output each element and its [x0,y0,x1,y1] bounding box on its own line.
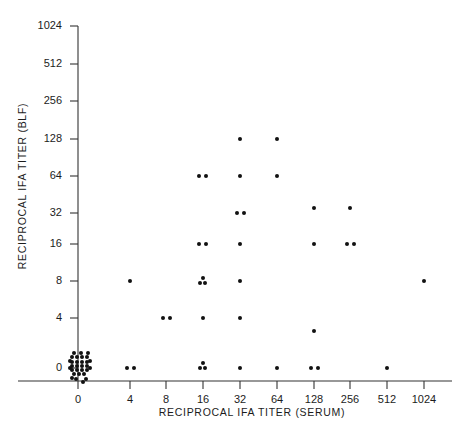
x-tick-label-0: 0 [58,393,98,405]
x-tick-label-128: 128 [294,393,334,405]
x-tick-label-8: 8 [146,393,186,405]
y-tick-label-256: 256 [22,94,62,106]
y-tick-label-16: 16 [22,237,62,249]
x-tick-label-32: 32 [220,393,260,405]
x-tick-label-1024: 1024 [404,393,444,405]
y-tick-label-8: 8 [22,274,62,286]
y-tick-label-1024: 1024 [22,19,62,31]
y-tick-label-512: 512 [22,57,62,69]
y-tick-label-4: 4 [22,311,62,323]
x-tick-label-4: 4 [110,393,150,405]
x-tick-label-64: 64 [257,393,297,405]
y-tick-label-64: 64 [22,169,62,181]
x-axis-title: RECIPROCAL IFA TITER (SERUM) [78,406,426,418]
y-tick-label-0: 0 [22,361,62,373]
x-axis-ticks [78,381,424,389]
x-tick-label-256: 256 [330,393,370,405]
x-tick-label-16: 16 [183,393,223,405]
y-axis-title: RECIPROCAL IFA TITER (BLF) [16,76,28,296]
y-tick-label-32: 32 [22,206,62,218]
x-tick-label-512: 512 [367,393,407,405]
y-axis-ticks [70,26,78,368]
y-tick-label-128: 128 [22,132,62,144]
scatter-plot-figure: 1024 512 256 128 64 32 16 8 4 0 0 4 8 16… [0,0,466,446]
